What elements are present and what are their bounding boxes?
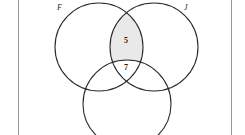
venn-diagram [0,0,245,135]
region-count-all-three-sets: 7 [124,64,128,72]
shaded-region-f-and-j-only [0,0,245,135]
set-label-j: J [184,4,188,12]
region-count-f-and-j-only: 5 [124,37,128,45]
set-label-f: F [57,4,62,12]
page-canvas: F J 5 7 [0,0,245,135]
